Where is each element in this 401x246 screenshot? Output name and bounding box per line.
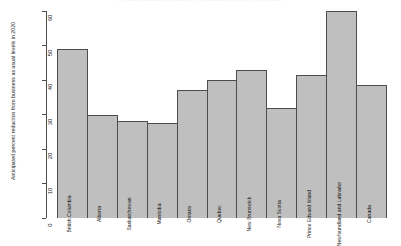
bar[interactable]: Canada [356, 85, 387, 218]
bar[interactable]: Ontario [177, 90, 208, 218]
bar-category-label: New Brunswick [246, 197, 252, 232]
y-axis-tick-label: 40 [47, 80, 53, 94]
bar[interactable]: Manitoba [147, 123, 178, 218]
y-axis-tick [42, 45, 46, 46]
bar-category-label: Saskatchewan [126, 197, 132, 230]
bar-category-label: Ontario [186, 206, 192, 223]
y-axis-tick-label: 10 [47, 184, 53, 198]
bar-category-label: Nova Scotia [276, 200, 282, 228]
bar-category-label: Newfoundland and Labrador [336, 182, 342, 246]
bar[interactable]: Prince Edward Island [296, 75, 327, 218]
bar-category-label: Quebec [216, 205, 222, 223]
bar[interactable]: New Brunswick [236, 70, 267, 218]
bar[interactable]: Saskatchewan [117, 121, 148, 218]
y-axis-tick [42, 11, 46, 12]
bar[interactable]: Nova Scotia [266, 108, 297, 218]
bar-category-label: Manitoba [156, 204, 162, 225]
bar-category-label: Prince Edward Island [306, 190, 312, 238]
bar-category-label: British Columbia [66, 195, 72, 232]
y-axis-tick [42, 218, 46, 219]
bar[interactable]: Alberta [87, 115, 118, 219]
y-axis-tick-label: 60 [47, 11, 53, 25]
y-axis-tick [42, 114, 46, 115]
y-axis-label: Anticipated percent reduction from busin… [10, 0, 16, 206]
chart-title: Anticipated emission reductions by provi… [0, 0, 401, 1]
y-axis-tick [42, 149, 46, 150]
bar-series: British ColumbiaAlbertaSaskatchewanManit… [57, 7, 387, 218]
y-axis-tick-label: 30 [47, 115, 53, 129]
y-axis-tick [42, 80, 46, 81]
plot-area: 0102030405060 British ColumbiaAlbertaSas… [46, 7, 397, 218]
bar-category-label: Canada [366, 205, 372, 223]
y-axis-tick-label: 0 [47, 218, 53, 232]
bar[interactable]: British Columbia [57, 49, 88, 218]
y-axis-tick-label: 20 [47, 149, 53, 163]
bar-category-label: Alberta [96, 206, 102, 222]
bar[interactable]: Quebec [207, 80, 238, 218]
bar[interactable]: Newfoundland and Labrador [326, 11, 357, 218]
y-axis-tick [42, 183, 46, 184]
y-axis-tick-label: 50 [47, 46, 53, 60]
